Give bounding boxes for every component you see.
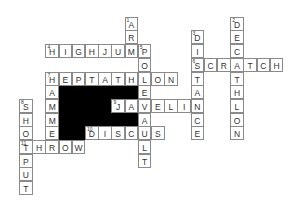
crossword-cell[interactable]: I xyxy=(59,44,73,58)
black-block xyxy=(59,113,139,127)
cell-letter: H xyxy=(271,61,283,71)
crossword-cell[interactable]: L xyxy=(138,140,152,154)
crossword-cell[interactable]: U xyxy=(138,126,152,140)
cell-letter: I xyxy=(60,47,72,57)
crossword-cell[interactable]: L xyxy=(138,72,152,86)
crossword-cell[interactable]: T xyxy=(111,72,125,86)
crossword-cell[interactable]: A xyxy=(230,58,244,72)
crossword-cell[interactable]: R xyxy=(217,58,231,72)
crossword-cell[interactable]: M xyxy=(45,113,59,127)
crossword-cell[interactable]: J9 xyxy=(111,99,125,113)
cell-letter: P xyxy=(73,75,85,85)
cell-letter: C xyxy=(192,116,204,126)
cell-letter: R xyxy=(218,61,230,71)
crossword-cell[interactable]: E xyxy=(151,99,165,113)
crossword-cell[interactable]: A1 xyxy=(125,17,139,31)
crossword-cell[interactable]: U xyxy=(111,44,125,58)
crossword-cell[interactable]: E xyxy=(59,72,73,86)
cell-letter: R xyxy=(46,143,58,153)
crossword-cell[interactable]: N xyxy=(230,126,244,140)
crossword-cell[interactable]: E xyxy=(138,85,152,99)
crossword-cell[interactable]: P5 xyxy=(138,44,152,58)
cell-letter: C xyxy=(205,61,217,71)
crossword-cell[interactable]: H xyxy=(32,140,46,154)
crossword-cell[interactable]: J xyxy=(98,44,112,58)
cell-letter: T xyxy=(112,75,124,85)
clue-number: 1 xyxy=(127,17,130,23)
crossword-cell[interactable]: W xyxy=(72,140,86,154)
crossword-cell[interactable]: S xyxy=(151,126,165,140)
crossword-cell[interactable]: O xyxy=(59,140,73,154)
crossword-cell[interactable]: C xyxy=(257,58,271,72)
cell-letter: N xyxy=(165,75,177,85)
cell-letter: E xyxy=(152,102,164,112)
crossword-cell[interactable]: R xyxy=(125,30,139,44)
cell-letter: A xyxy=(231,61,243,71)
crossword-cell[interactable]: A xyxy=(138,113,152,127)
crossword-cell[interactable]: D3 xyxy=(191,30,205,44)
cell-letter: T xyxy=(86,75,98,85)
crossword-cell[interactable]: I xyxy=(177,99,191,113)
crossword-cell[interactable]: H xyxy=(125,72,139,86)
cell-letter: A xyxy=(192,88,204,98)
crossword-cell[interactable]: T xyxy=(19,181,33,195)
crossword-cell[interactable]: C xyxy=(230,44,244,58)
crossword-cell[interactable]: D2 xyxy=(230,17,244,31)
cell-letter: T xyxy=(244,61,256,71)
crossword-cell[interactable]: H xyxy=(270,58,284,72)
crossword-cell[interactable]: G xyxy=(72,44,86,58)
crossword-cell[interactable]: T xyxy=(191,72,205,86)
crossword-cell[interactable]: T xyxy=(138,154,152,168)
cell-letter: I xyxy=(192,47,204,57)
crossword-cell[interactable]: H xyxy=(19,113,33,127)
crossword-cell[interactable]: H xyxy=(85,44,99,58)
crossword-cell[interactable]: E xyxy=(45,126,59,140)
crossword-cell[interactable]: A xyxy=(125,99,139,113)
crossword-cell[interactable]: O xyxy=(230,113,244,127)
crossword-cell[interactable]: H7 xyxy=(45,72,59,86)
cell-letter: T xyxy=(231,75,243,85)
cell-letter: E xyxy=(139,88,151,98)
crossword-cell[interactable]: U xyxy=(19,167,33,181)
crossword-cell[interactable]: O xyxy=(138,58,152,72)
crossword-cell[interactable]: C xyxy=(204,58,218,72)
crossword-cell[interactable]: I xyxy=(191,44,205,58)
crossword-cell[interactable]: D10 xyxy=(85,126,99,140)
crossword-cell[interactable]: I xyxy=(98,126,112,140)
crossword-cell[interactable]: E xyxy=(191,126,205,140)
crossword-cell[interactable]: P xyxy=(72,72,86,86)
crossword-cell[interactable]: O xyxy=(151,72,165,86)
crossword-cell[interactable]: H xyxy=(230,85,244,99)
cell-letter: T xyxy=(139,157,151,167)
crossword-cell[interactable]: C xyxy=(125,126,139,140)
crossword-cell[interactable]: M xyxy=(125,44,139,58)
crossword-cell[interactable]: S8 xyxy=(19,99,33,113)
crossword-cell[interactable]: H4 xyxy=(45,44,59,58)
crossword-cell[interactable]: T xyxy=(230,72,244,86)
crossword-cell[interactable]: M xyxy=(45,99,59,113)
crossword-cell[interactable]: N xyxy=(164,72,178,86)
crossword-cell[interactable]: S6 xyxy=(191,58,205,72)
crossword-cell[interactable]: A xyxy=(98,72,112,86)
cell-letter: V xyxy=(139,102,151,112)
crossword-cell[interactable]: R xyxy=(45,140,59,154)
crossword-cell[interactable]: T xyxy=(243,58,257,72)
crossword-cell[interactable]: A xyxy=(45,85,59,99)
crossword-cell[interactable]: A xyxy=(191,85,205,99)
crossword-cell[interactable]: V xyxy=(138,99,152,113)
cell-letter: E xyxy=(60,75,72,85)
crossword-cell[interactable]: N xyxy=(191,99,205,113)
crossword-cell[interactable]: L xyxy=(164,99,178,113)
crossword-cell[interactable]: T xyxy=(85,72,99,86)
crossword-cell[interactable]: L xyxy=(230,99,244,113)
cell-letter: S xyxy=(112,129,124,139)
crossword-cell[interactable]: O xyxy=(19,126,33,140)
cell-letter: A xyxy=(126,102,138,112)
crossword-cell[interactable]: C xyxy=(191,113,205,127)
black-block xyxy=(59,126,86,140)
cell-letter: U xyxy=(20,170,32,180)
crossword-cell[interactable]: P xyxy=(19,154,33,168)
crossword-cell[interactable]: E xyxy=(230,30,244,44)
crossword-cell[interactable]: S xyxy=(111,126,125,140)
crossword-cell[interactable]: T11 xyxy=(19,140,33,154)
